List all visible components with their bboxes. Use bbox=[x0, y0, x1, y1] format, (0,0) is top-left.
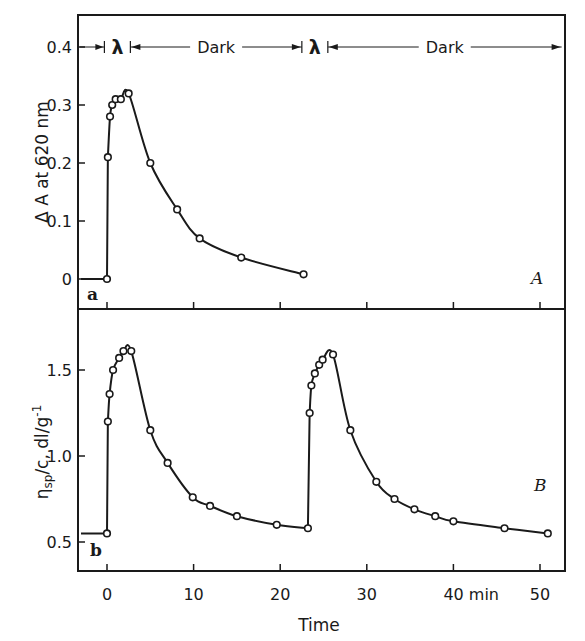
data-point bbox=[544, 530, 551, 537]
data-point bbox=[147, 427, 154, 434]
data-point bbox=[147, 160, 154, 167]
panel-a-ylabel: Δ A at 620 nm bbox=[32, 101, 52, 223]
data-point bbox=[373, 479, 380, 486]
data-point bbox=[234, 513, 241, 520]
data-point bbox=[300, 271, 307, 278]
data-point bbox=[189, 494, 196, 501]
data-point bbox=[116, 355, 123, 362]
data-point bbox=[128, 348, 135, 355]
data-point bbox=[196, 235, 203, 242]
data-point bbox=[273, 522, 280, 529]
panel-b-axes: 010203040 min500.51.01.5 bbox=[47, 361, 551, 604]
panel-b-curve bbox=[81, 345, 551, 537]
data-point bbox=[450, 518, 457, 525]
data-point bbox=[432, 513, 439, 520]
x-tick-label: 10 bbox=[183, 585, 203, 604]
data-point bbox=[347, 427, 354, 434]
panel-a-axes: 00.10.20.30.4 bbox=[47, 38, 540, 309]
panel-b-corner-label: b bbox=[90, 540, 102, 560]
data-point bbox=[104, 276, 111, 283]
period-label-light: λ bbox=[309, 36, 321, 58]
data-point bbox=[411, 506, 418, 513]
data-point bbox=[104, 530, 111, 537]
data-point bbox=[106, 391, 113, 398]
arrow-right-icon bbox=[95, 44, 103, 50]
data-point bbox=[501, 525, 508, 532]
arrow-left-icon bbox=[131, 44, 140, 50]
period-label-dark: Dark bbox=[197, 38, 236, 57]
panel-b-label: B bbox=[533, 475, 547, 495]
panel-a-corner-label: a bbox=[87, 284, 98, 304]
arrow-left-icon bbox=[329, 44, 338, 50]
data-point bbox=[110, 367, 117, 374]
data-point bbox=[319, 356, 326, 363]
dual-panel-chart: 00.10.20.30.4 010203040 min500.51.01.5 λ… bbox=[0, 0, 585, 641]
arrow-right-icon bbox=[292, 44, 301, 50]
x-tick-label: 40 min bbox=[443, 585, 499, 604]
panel-b-y-tick-label: 1.5 bbox=[47, 361, 72, 380]
x-tick-label: 20 bbox=[270, 585, 290, 604]
data-point bbox=[306, 410, 313, 417]
data-point bbox=[105, 418, 112, 425]
data-point bbox=[312, 370, 319, 377]
arrow-right-icon bbox=[552, 44, 561, 50]
data-point bbox=[125, 90, 132, 97]
figure: 00.10.20.30.4 010203040 min500.51.01.5 λ… bbox=[0, 0, 585, 641]
data-point bbox=[174, 206, 181, 213]
period-label-dark: Dark bbox=[426, 38, 465, 57]
panel-b-y-tick-label: 0.5 bbox=[47, 533, 72, 552]
panel-a-y-tick-label: 0 bbox=[62, 270, 72, 289]
panel-a-y-tick-label: 0.4 bbox=[47, 38, 72, 57]
data-point bbox=[120, 348, 127, 355]
data-point bbox=[308, 382, 315, 389]
panel-a-line bbox=[81, 90, 304, 279]
data-point bbox=[118, 96, 125, 103]
data-point bbox=[391, 496, 398, 503]
data-point bbox=[164, 460, 171, 467]
illumination-periods: λDarkλDark bbox=[80, 36, 562, 58]
x-tick-label: 0 bbox=[102, 585, 112, 604]
data-point bbox=[238, 254, 245, 261]
x-tick-label: 50 bbox=[530, 585, 550, 604]
data-point bbox=[105, 154, 112, 161]
x-tick-label: 30 bbox=[357, 585, 377, 604]
period-label-light: λ bbox=[111, 36, 123, 58]
panel-a-label: A bbox=[529, 268, 543, 288]
data-point bbox=[207, 503, 214, 510]
data-point bbox=[107, 113, 114, 120]
x-axis-label: Time bbox=[297, 615, 340, 635]
data-point bbox=[305, 525, 312, 532]
data-point bbox=[330, 351, 337, 358]
panel-b-frame bbox=[78, 309, 565, 571]
panel-b-ylabel: ηsp/c, dl/g-1 bbox=[30, 405, 55, 500]
panel-a-curve bbox=[81, 90, 307, 283]
